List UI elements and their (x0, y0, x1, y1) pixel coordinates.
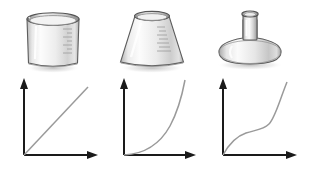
flask-mouth (244, 13, 255, 17)
figure-canvas (0, 0, 311, 171)
round-bottom-flask-icon (199, 2, 302, 74)
sigmoid-graph (199, 74, 311, 169)
y-axis-arrowhead (219, 78, 227, 89)
panel-inverted-conical-beaker (100, 0, 203, 171)
linear-curve (24, 87, 88, 155)
linear-graph (0, 74, 103, 169)
beaker-rim-inner (30, 16, 76, 26)
graph-slot-1 (100, 74, 203, 169)
y-axis-arrowhead (20, 78, 28, 89)
axes-2 (219, 78, 297, 159)
panel-round-bottom-flask (199, 0, 302, 171)
graph-slot-0 (0, 74, 103, 169)
beaker-highlight (35, 26, 36, 59)
x-axis-arrowhead (185, 151, 196, 159)
x-axis-arrowhead (87, 151, 98, 159)
vessel-slot-0 (0, 2, 103, 74)
vessel-slot-1 (100, 2, 203, 74)
panel-cylindrical-beaker (0, 0, 103, 171)
convex-curve (124, 80, 185, 155)
convex-increasing-graph (100, 74, 203, 169)
y-axis-arrowhead (120, 78, 128, 89)
cone-body (121, 16, 184, 66)
vessel-slot-2 (199, 2, 302, 74)
axes-1 (120, 78, 196, 159)
cone-rim-inner (137, 14, 167, 21)
cylindrical-beaker-icon (0, 2, 103, 74)
graph-slot-2 (199, 74, 302, 169)
x-axis-arrowhead (286, 151, 297, 159)
inverted-conical-beaker-icon (100, 2, 203, 74)
sigmoid-curve (223, 82, 287, 155)
flask-neck (243, 14, 257, 40)
